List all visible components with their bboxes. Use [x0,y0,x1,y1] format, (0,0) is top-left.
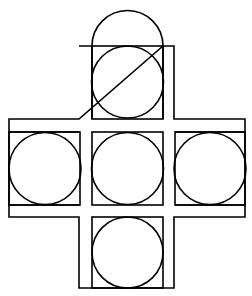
circle-right [174,133,246,205]
cross-outline [9,46,245,288]
circle-bottom [92,217,163,288]
circle-left [9,133,81,205]
circle-center [92,133,164,205]
cross-diagram [0,0,252,296]
top-arch [92,10,163,119]
circle-top [92,46,164,118]
